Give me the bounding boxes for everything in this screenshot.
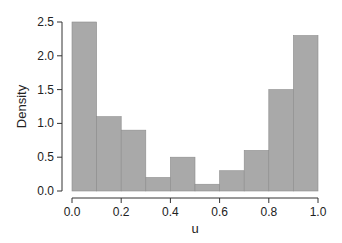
bars-group: [72, 22, 318, 191]
x-tick-label: 0.0: [64, 205, 81, 219]
x-axis: 0.00.20.40.60.81.0: [64, 198, 327, 219]
y-axis-title: Density: [14, 84, 29, 128]
histogram-bar: [146, 177, 171, 191]
histogram-bar: [72, 22, 97, 191]
x-tick-label: 0.6: [211, 205, 228, 219]
y-tick-label: 1.5: [37, 83, 54, 97]
histogram-bar: [244, 150, 269, 191]
x-tick-label: 1.0: [310, 205, 327, 219]
x-tick-label: 0.8: [260, 205, 277, 219]
histogram-bar: [121, 130, 146, 191]
y-tick-label: 1.0: [37, 116, 54, 130]
y-tick-label: 0.5: [37, 150, 54, 164]
x-tick-label: 0.4: [162, 205, 179, 219]
histogram-bar: [220, 171, 245, 191]
y-axis: 0.00.51.01.52.02.5: [37, 15, 62, 198]
y-tick-label: 0.0: [37, 184, 54, 198]
histogram-bar: [195, 184, 220, 191]
y-tick-label: 2.5: [37, 15, 54, 29]
histogram-bar: [97, 117, 122, 191]
y-tick-label: 2.0: [37, 49, 54, 63]
x-tick-label: 0.2: [113, 205, 130, 219]
histogram-bar: [293, 36, 318, 191]
histogram-bar: [170, 157, 195, 191]
histogram-bar: [269, 90, 294, 191]
histogram-chart: 0.00.51.01.52.02.5 0.00.20.40.60.81.0 u …: [0, 0, 342, 243]
x-axis-title: u: [191, 221, 198, 236]
